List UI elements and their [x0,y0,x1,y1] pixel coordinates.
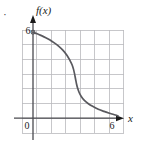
x-tick-label-6: 6 [110,120,115,131]
leading-bullet-mark: · [3,9,6,20]
figure-background [0,0,142,150]
origin-label: 0 [25,120,30,131]
function-graph-figure: f(x) x 0 6 6 · [0,0,142,150]
y-axis-label: f(x) [36,4,52,17]
x-axis-label: x [127,112,133,124]
graph-canvas: f(x) x 0 6 6 · [0,0,142,150]
y-tick-label-6: 6 [26,25,31,36]
